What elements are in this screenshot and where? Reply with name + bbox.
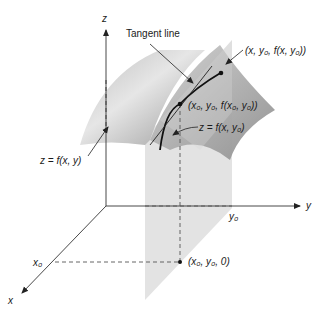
point-ground-label: (x₀, y₀, 0) (188, 256, 230, 267)
diagram-svg: z y x Tangent line (x, y₀, f(x, y₀)) (x₀… (0, 0, 323, 315)
z-axis-label: z (101, 13, 107, 24)
tangent-line-label: Tangent line (126, 28, 180, 39)
x-axis-label: x (7, 295, 14, 306)
point-base (178, 102, 183, 107)
point-ground (178, 260, 182, 264)
diagram-canvas: z y x Tangent line (x, y₀, f(x, y₀)) (x₀… (0, 0, 323, 315)
surface-label: z = f(x, y) (39, 155, 81, 166)
point-base-label: (x₀, y₀, f(x₀, y₀)) (188, 100, 258, 111)
point-moving (219, 71, 224, 76)
y0-label: y₀ (228, 211, 238, 222)
curve-label: z = f(x, y₀) (198, 122, 245, 133)
x-axis (22, 206, 106, 293)
y-axis-label: y (305, 200, 312, 211)
point-moving-label: (x, y₀, f(x, y₀)) (245, 45, 306, 56)
x0-label: x₀ (32, 257, 42, 268)
